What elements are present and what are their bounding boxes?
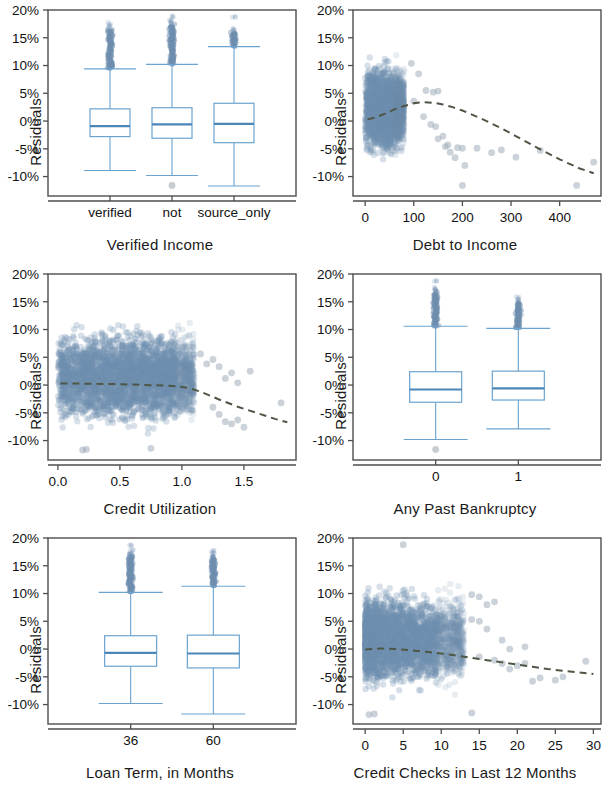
data-point — [177, 408, 183, 414]
data-point — [184, 349, 190, 355]
data-point — [400, 541, 407, 548]
data-point — [368, 616, 374, 622]
data-point — [98, 329, 104, 335]
data-point — [367, 54, 373, 60]
data-point — [367, 110, 373, 116]
data-point — [64, 392, 70, 398]
data-point — [373, 668, 379, 674]
x-tick-label: 0 — [432, 469, 440, 484]
data-point — [104, 367, 110, 373]
panel-loan-term: Residuals 20%15%10%5%0%-5%-10%3660 Loan … — [0, 528, 305, 791]
data-point — [160, 375, 166, 381]
data-point — [383, 594, 389, 600]
data-point — [372, 96, 378, 102]
data-point — [408, 662, 414, 668]
data-point — [376, 584, 382, 590]
data-point — [143, 400, 149, 406]
data-point — [452, 622, 458, 628]
data-point — [59, 335, 65, 341]
panel-2-y-axis-label: Residuals — [332, 98, 349, 166]
data-point — [163, 418, 169, 424]
data-point — [457, 652, 463, 658]
panel-2-x-axis-label: Debt to Income — [335, 236, 595, 253]
data-point — [145, 430, 151, 436]
data-point — [405, 617, 411, 623]
data-point — [222, 375, 229, 382]
data-point — [76, 394, 82, 400]
data-point — [166, 371, 172, 377]
scatter-cloud — [362, 541, 593, 718]
data-point — [135, 398, 141, 404]
data-point — [364, 103, 370, 109]
data-point — [529, 678, 536, 685]
panel-4-y-axis-label: Residuals — [332, 362, 349, 430]
box-iqr — [492, 371, 544, 400]
data-point — [141, 354, 147, 360]
data-point — [92, 331, 98, 337]
data-point — [442, 585, 448, 591]
data-point — [85, 353, 91, 359]
data-point — [439, 612, 445, 618]
data-point — [459, 620, 465, 626]
data-point — [459, 182, 466, 189]
data-point — [402, 624, 408, 630]
data-point — [186, 320, 192, 326]
data-point — [278, 399, 285, 406]
y-tick-label: -10% — [7, 433, 39, 448]
data-point — [380, 156, 386, 162]
x-tick-label: 5 — [399, 738, 407, 753]
data-point — [459, 671, 465, 677]
data-point — [441, 636, 447, 642]
data-point — [107, 360, 113, 366]
data-point — [121, 397, 127, 403]
data-point — [432, 123, 439, 130]
box-iqr — [410, 372, 462, 403]
data-point — [172, 415, 178, 421]
data-point — [409, 586, 415, 592]
data-point — [582, 658, 589, 665]
data-point — [247, 368, 254, 375]
data-point — [397, 124, 403, 130]
data-point — [390, 119, 396, 125]
data-point — [390, 680, 396, 686]
data-point — [378, 75, 384, 81]
data-point — [138, 333, 144, 339]
x-tick-label: 15 — [472, 738, 487, 753]
data-point — [483, 626, 490, 633]
data-point — [452, 691, 458, 697]
panel-credit-utilization: Residuals 20%15%10%5%0%-5%-10%0.00.51.01… — [0, 264, 305, 528]
data-point — [183, 366, 189, 372]
data-point — [120, 339, 126, 345]
data-point — [119, 360, 125, 366]
data-point — [365, 585, 371, 591]
data-point — [111, 365, 117, 371]
data-point — [89, 370, 95, 376]
data-point — [125, 329, 131, 335]
data-point — [401, 678, 407, 684]
outlier-point — [434, 278, 439, 283]
x-tick-label: 100 — [403, 210, 426, 225]
data-point — [392, 100, 398, 106]
data-point — [132, 349, 138, 355]
data-point — [376, 136, 382, 142]
data-point — [474, 145, 481, 152]
data-point — [100, 374, 106, 380]
data-point — [141, 367, 147, 373]
data-point — [399, 116, 405, 122]
data-point — [87, 365, 93, 371]
y-tick-label: 20% — [12, 531, 39, 546]
panel-2-plot: 20%15%10%5%0%-5%-10%0100200300400 — [305, 0, 610, 230]
data-point — [141, 344, 147, 350]
data-point — [506, 646, 513, 653]
data-point — [216, 411, 223, 418]
data-point — [183, 399, 189, 405]
data-point — [133, 373, 139, 379]
data-point — [102, 386, 108, 392]
data-point — [186, 376, 192, 382]
outlier-point — [434, 293, 439, 298]
box-iqr — [105, 636, 157, 667]
y-tick-label: 15% — [12, 31, 39, 46]
panel-1-x-axis-label: Verified Income — [30, 236, 290, 253]
outlier-point — [433, 286, 438, 291]
data-point — [396, 687, 402, 693]
